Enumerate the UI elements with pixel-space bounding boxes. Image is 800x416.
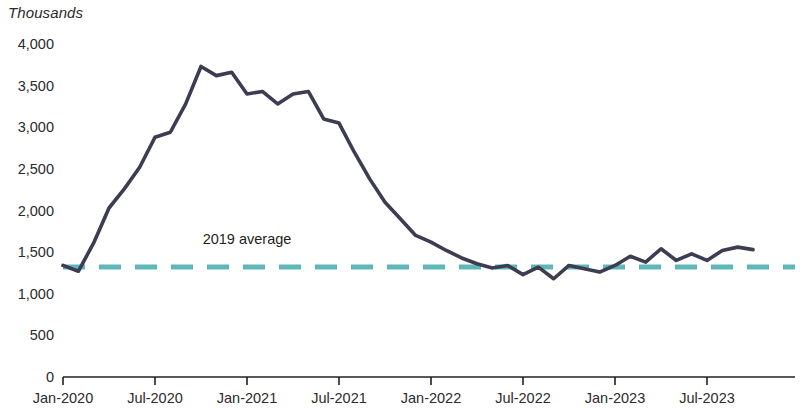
plot-area <box>0 0 800 416</box>
average-annotation-label: 2019 average <box>203 231 292 247</box>
line-chart: Thousands 05001,0001,5002,0002,5003,0003… <box>0 0 800 416</box>
data-series-line <box>63 66 753 278</box>
x-axis-tick-marks <box>63 377 707 385</box>
axis-group <box>63 377 795 385</box>
